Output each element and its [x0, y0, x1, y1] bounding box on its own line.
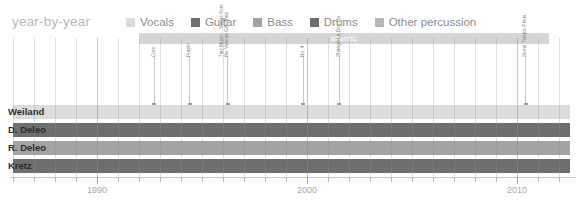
x-axis-minor-tick	[265, 177, 266, 181]
record-label-band-text: atlantic	[331, 33, 357, 44]
x-axis-minor-tick	[202, 177, 203, 181]
legend-item-label: Bass	[267, 12, 293, 32]
x-axis-minor-tick	[118, 177, 119, 181]
album-title-label: Core	[151, 47, 156, 57]
x-axis-minor-tick	[139, 177, 140, 181]
x-axis-minor-tick	[223, 177, 224, 181]
x-axis-minor-tick	[454, 177, 455, 181]
member-row: Weiland	[0, 105, 574, 119]
member-row: R. Deleo	[0, 141, 574, 155]
album-marker-stem	[189, 56, 190, 106]
member-row: Kretz	[0, 159, 574, 173]
album-release-marker: Purple	[189, 56, 190, 106]
legend-item: Vocals	[126, 12, 174, 32]
x-axis-minor-tick	[160, 177, 161, 181]
legend-swatch-icon	[126, 18, 135, 27]
x-axis-minor-tick	[55, 177, 56, 181]
chart-header: year-by-year VocalsGuitarBassDrumsOther …	[0, 12, 574, 32]
x-axis-minor-tick	[559, 177, 560, 181]
x-axis-major-tick	[97, 177, 98, 184]
x-axis-tick-label: 2010	[507, 185, 527, 195]
legend-swatch-icon	[375, 18, 384, 27]
member-name-label: Weiland	[8, 105, 44, 119]
x-axis-minor-tick	[538, 177, 539, 181]
x-axis-minor-tick	[433, 177, 434, 181]
member-name-label: Kretz	[8, 159, 32, 173]
x-axis-minor-tick	[34, 177, 35, 181]
album-release-marker: Stone Temple Pilots	[525, 56, 526, 106]
member-activity-bar	[13, 159, 570, 173]
x-axis-minor-tick	[244, 177, 245, 181]
x-axis-minor-tick	[286, 177, 287, 181]
legend-swatch-icon	[310, 18, 319, 27]
member-activity-bar	[13, 141, 570, 155]
member-row: D. Deleo	[0, 123, 574, 137]
x-axis-minor-tick	[349, 177, 350, 181]
legend-swatch-icon	[253, 18, 262, 27]
member-activity-bar	[13, 123, 570, 137]
album-marker-layer: CorePurpleTiny Music... Songs from the V…	[0, 46, 574, 106]
album-marker-stem	[525, 56, 526, 106]
legend-item: Other percussion	[375, 12, 477, 32]
x-axis-tick-label: 1990	[87, 185, 107, 195]
chart-legend: VocalsGuitarBassDrumsOther percussion	[126, 12, 476, 32]
x-axis-tick-label: 2000	[297, 185, 317, 195]
x-axis-minor-tick	[328, 177, 329, 181]
album-title-label: Purple	[186, 43, 191, 57]
member-name-label: D. Deleo	[8, 123, 46, 137]
legend-swatch-icon	[191, 18, 200, 27]
x-axis-minor-tick	[475, 177, 476, 181]
album-title-label: Shangri-La Dee Da	[336, 16, 341, 57]
legend-item: Drums	[310, 12, 358, 32]
member-name-label: R. Deleo	[8, 141, 46, 155]
x-axis-minor-tick	[370, 177, 371, 181]
x-axis-minor-tick	[391, 177, 392, 181]
x-axis-minor-tick	[496, 177, 497, 181]
legend-item: Bass	[253, 12, 293, 32]
x-axis-minor-tick	[181, 177, 182, 181]
album-release-marker: No. 4	[303, 56, 304, 106]
legend-item-label: Other percussion	[389, 12, 477, 32]
album-marker-stem	[303, 56, 304, 106]
x-axis: 199020002010	[0, 177, 574, 204]
page-title: year-by-year	[12, 12, 90, 32]
album-title-label: Tiny Music... Songs from the Vatican Gif…	[219, 1, 229, 57]
album-release-marker: Shangri-La Dee Da	[339, 56, 340, 106]
album-marker-stem	[227, 56, 228, 106]
legend-item-label: Vocals	[140, 12, 174, 32]
album-marker-stem	[339, 56, 340, 106]
member-activity-bar	[13, 105, 570, 119]
x-axis-minor-tick	[412, 177, 413, 181]
record-label-band: atlantic	[139, 33, 549, 44]
album-release-marker: Core	[154, 56, 155, 106]
x-axis-line	[10, 177, 576, 178]
member-rows-layer: WeilandD. DeleoR. DeleoKretz	[0, 105, 574, 177]
x-axis-major-tick	[517, 177, 518, 184]
legend-item: Guitar	[191, 12, 236, 32]
x-axis-major-tick	[307, 177, 308, 184]
album-release-marker: Tiny Music... Songs from the Vatican Gif…	[227, 56, 228, 106]
album-title-label: No. 4	[300, 46, 305, 57]
album-marker-stem	[154, 56, 155, 106]
album-title-label: Stone Temple Pilots	[522, 15, 527, 57]
x-axis-minor-tick	[13, 177, 14, 181]
x-axis-minor-tick	[76, 177, 77, 181]
